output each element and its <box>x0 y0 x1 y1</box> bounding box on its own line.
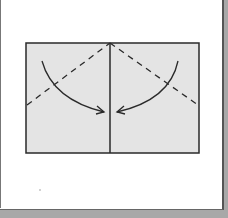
paper-sheet <box>26 43 199 153</box>
speck <box>39 189 41 191</box>
fold-diagram <box>0 0 228 218</box>
